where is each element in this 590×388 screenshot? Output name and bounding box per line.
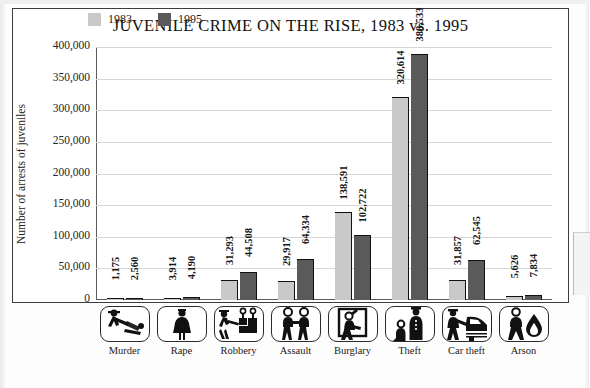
bar-theft-1995 <box>411 54 428 300</box>
y-tick-label: 400,000 <box>0 39 90 51</box>
bar-group: 1,1752,560 <box>96 47 153 300</box>
y-tick-label: 200,000 <box>0 166 90 178</box>
y-tick-label: 300,000 <box>0 102 90 114</box>
bar-value-label: 138,591 <box>338 166 349 200</box>
category-label: Burglary <box>334 345 371 356</box>
bar-group: 31,85762,545 <box>438 47 495 300</box>
bar-slot: 5,626 <box>506 47 523 300</box>
y-tick-label: 150,000 <box>0 197 90 209</box>
bar-group: 320,614388,533 <box>381 47 438 300</box>
burglary-icon <box>328 306 378 342</box>
legend-item-1983: 1983 <box>88 12 132 27</box>
bar-slot: 388,533 <box>411 47 428 300</box>
category-cell: Rape <box>153 306 210 356</box>
bar-slot: 102,722 <box>354 47 371 300</box>
bar-car-theft-1995 <box>468 260 485 300</box>
bar-slot: 31,857 <box>449 47 466 300</box>
legend-label-1983: 1983 <box>108 12 132 27</box>
bar-car-theft-1983 <box>449 280 466 300</box>
bar-value-label: 29,917 <box>281 237 292 266</box>
category-cell: Car theft <box>438 306 495 356</box>
bar-slot: 64,334 <box>297 47 314 300</box>
page-edge-right <box>585 0 589 388</box>
category-label: Rape <box>171 345 193 356</box>
category-label: Assault <box>280 345 312 356</box>
bar-arson-1995 <box>525 295 542 300</box>
theft-icon <box>385 306 435 342</box>
category-cell: Arson <box>495 306 552 356</box>
bar-value-label: 64,334 <box>300 215 311 244</box>
robbery-icon <box>214 306 264 342</box>
arson-icon <box>499 306 549 342</box>
bar-murder-1995 <box>126 298 143 300</box>
bar-slot: 29,917 <box>278 47 295 300</box>
legend-label-1995: 1995 <box>178 12 202 27</box>
category-label: Murder <box>109 345 141 356</box>
bar-slot: 3,914 <box>164 47 181 300</box>
bar-value-label: 31,293 <box>224 236 235 265</box>
bar-robbery-1983 <box>221 280 238 300</box>
y-tick-label: 250,000 <box>0 134 90 146</box>
category-label: Car theft <box>448 345 485 356</box>
rape-icon <box>157 306 207 342</box>
scan-artifact <box>573 232 590 295</box>
bar-slot: 1,175 <box>107 47 124 300</box>
bar-slot: 62,545 <box>468 47 485 300</box>
car-theft-icon <box>442 306 492 342</box>
y-tick-label: 100,000 <box>0 229 90 241</box>
legend-swatch-1983 <box>88 13 101 26</box>
category-cell: Murder <box>96 306 153 356</box>
bar-value-label: 320,614 <box>395 51 406 85</box>
bar-groups: 1,1752,5603,9144,19031,29344,50829,91764… <box>96 47 552 300</box>
y-tick-label: 350,000 <box>0 71 90 83</box>
bar-murder-1983 <box>107 298 124 300</box>
bar-burglary-1995 <box>354 235 371 300</box>
bar-value-label: 4,190 <box>186 256 197 280</box>
bar-group: 5,6267,834 <box>495 47 552 300</box>
bar-slot: 4,190 <box>183 47 200 300</box>
bar-value-label: 2,560 <box>129 257 140 281</box>
bar-value-label: 7,834 <box>528 254 539 278</box>
category-label: Robbery <box>220 345 256 356</box>
bar-value-label: 3,914 <box>167 256 178 280</box>
bar-value-label: 62,545 <box>471 217 482 246</box>
legend-swatch-1995 <box>158 13 171 26</box>
bar-slot: 2,560 <box>126 47 143 300</box>
bar-value-label: 388,533 <box>414 8 425 42</box>
category-cell: Theft <box>381 306 438 356</box>
bar-assault-1995 <box>297 259 314 300</box>
page-edge-top <box>0 0 589 4</box>
bar-theft-1983 <box>392 97 409 300</box>
category-cell: Burglary <box>324 306 381 356</box>
legend-item-1995: 1995 <box>158 12 202 27</box>
bar-group: 31,29344,508 <box>210 47 267 300</box>
category-cell: Robbery <box>210 306 267 356</box>
bar-group: 29,91764,334 <box>267 47 324 300</box>
category-label: Theft <box>398 345 421 356</box>
bar-arson-1983 <box>506 296 523 300</box>
bar-slot: 320,614 <box>392 47 409 300</box>
bar-group: 138,591102,722 <box>324 47 381 300</box>
bar-slot: 44,508 <box>240 47 257 300</box>
bar-slot: 7,834 <box>525 47 542 300</box>
bar-value-label: 31,857 <box>452 236 463 265</box>
chart-legend: 1983 1995 <box>88 12 202 27</box>
bar-rape-1983 <box>164 298 181 300</box>
page-edge-left <box>0 0 5 388</box>
category-icon-row: MurderRapeRobberyAssaultBurglaryTheftCar… <box>96 306 552 356</box>
y-tick-label: 50,000 <box>0 260 90 272</box>
plot-area: 400,000350,000300,000250,000200,000150,0… <box>96 47 552 300</box>
bar-slot: 138,591 <box>335 47 352 300</box>
bar-value-label: 44,508 <box>243 228 254 257</box>
murder-icon <box>100 306 150 342</box>
bar-rape-1995 <box>183 297 200 300</box>
y-tick-label: 0 <box>0 292 90 304</box>
assault-icon <box>271 306 321 342</box>
bar-group: 3,9144,190 <box>153 47 210 300</box>
bar-value-label: 1,175 <box>110 257 121 281</box>
bar-burglary-1983 <box>335 212 352 300</box>
bar-value-label: 5,626 <box>509 255 520 279</box>
category-cell: Assault <box>267 306 324 356</box>
bar-slot: 31,293 <box>221 47 238 300</box>
